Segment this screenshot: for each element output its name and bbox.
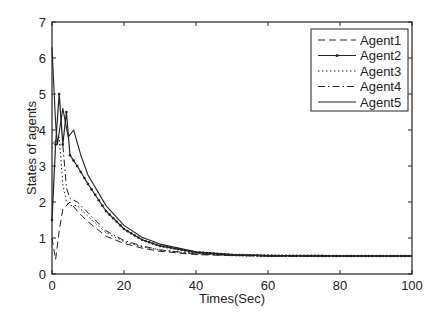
data-marker — [90, 188, 93, 191]
data-marker — [108, 213, 111, 216]
legend-marker — [336, 54, 339, 57]
x-tick-label: 100 — [401, 278, 423, 293]
data-marker — [83, 177, 86, 180]
data-marker — [94, 194, 97, 197]
legend-label: Agent3 — [360, 64, 401, 79]
y-axis-label: States of agents — [24, 101, 39, 195]
data-marker — [101, 204, 104, 207]
data-marker — [112, 217, 115, 220]
data-marker — [69, 154, 72, 157]
data-marker — [126, 230, 129, 233]
y-tick-label: 0 — [39, 267, 46, 282]
legend-label: Agent2 — [360, 48, 401, 63]
data-marker — [162, 245, 165, 248]
legend: Agent1Agent2Agent3Agent4Agent5 — [311, 29, 408, 111]
data-marker — [65, 111, 68, 114]
data-marker — [119, 224, 122, 227]
x-tick-label: 80 — [333, 278, 347, 293]
x-axis-label: Times(Sec) — [199, 291, 265, 306]
data-marker — [87, 183, 90, 186]
x-tick-label: 20 — [117, 278, 131, 293]
y-tick-label: 1 — [39, 231, 46, 246]
data-marker — [148, 241, 151, 244]
data-marker — [76, 165, 79, 168]
legend-label: Agent4 — [360, 79, 401, 94]
legend-label: Agent1 — [360, 33, 401, 48]
data-marker — [144, 240, 147, 243]
legend-label: Agent5 — [360, 95, 401, 110]
data-marker — [58, 93, 61, 96]
data-marker — [116, 221, 119, 224]
data-marker — [141, 239, 144, 242]
data-marker — [137, 236, 140, 239]
data-marker — [134, 234, 137, 237]
y-tick-label: 5 — [39, 87, 46, 102]
data-marker — [130, 232, 133, 235]
y-tick-label: 7 — [39, 15, 46, 30]
data-marker — [80, 171, 83, 174]
data-marker — [72, 159, 75, 162]
data-marker — [123, 228, 126, 231]
line-chart: 02040608010001234567 Times(Sec) States o… — [0, 0, 444, 320]
y-tick-label: 4 — [39, 123, 46, 138]
y-tick-label: 6 — [39, 51, 46, 66]
series-agent2 — [52, 94, 412, 256]
y-tick-label: 3 — [39, 159, 46, 174]
data-marker — [105, 210, 108, 213]
x-tick-label: 0 — [48, 278, 55, 293]
data-marker — [152, 242, 155, 245]
series-agent3 — [52, 137, 412, 256]
y-tick-label: 2 — [39, 195, 46, 210]
data-marker — [159, 245, 162, 248]
data-marker — [155, 243, 158, 246]
data-marker — [98, 199, 101, 202]
series-agent4 — [52, 141, 412, 256]
